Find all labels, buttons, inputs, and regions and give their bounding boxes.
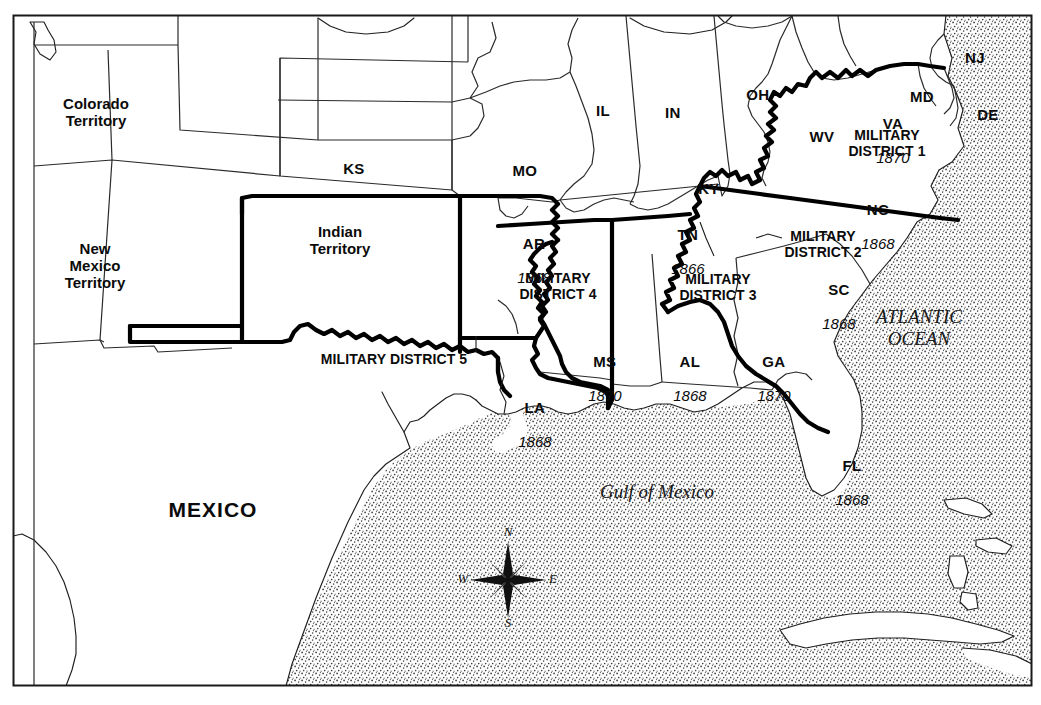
reconstruction-military-districts-map: Colorado Territory New Mexico Territory …	[0, 0, 1041, 705]
map-graphic	[0, 0, 1041, 705]
